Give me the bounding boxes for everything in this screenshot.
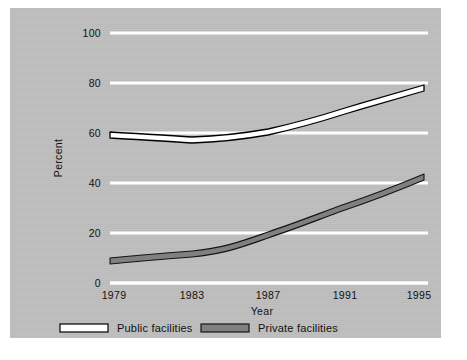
y-axis-ticks: 100 80 60 40 20 0	[83, 27, 101, 289]
series-private-facilities	[110, 174, 424, 264]
x-tick-label-1991: 1991	[333, 289, 358, 301]
x-tick-label-1983: 1983	[180, 289, 205, 301]
chart-legend: Public facilities Private facilities	[60, 322, 338, 334]
gridlines	[110, 33, 428, 283]
legend-swatch-private-facilities	[201, 324, 249, 332]
x-tick-label-1979: 1979	[102, 289, 127, 301]
y-tick-label-0: 0	[95, 277, 101, 289]
series-private-facilities-band	[110, 174, 424, 264]
y-tick-label-60: 60	[89, 127, 101, 139]
legend-label-private-facilities: Private facilities	[258, 322, 338, 334]
y-tick-label-20: 20	[89, 227, 101, 239]
y-tick-label-100: 100	[83, 27, 101, 39]
y-tick-label-40: 40	[89, 177, 101, 189]
y-axis-title: Percent	[52, 139, 64, 177]
x-tick-label-1995: 1995	[407, 289, 432, 301]
legend-label-public-facilities: Public facilities	[117, 322, 193, 334]
legend-swatch-public-facilities	[60, 324, 108, 332]
line-chart: 100 80 60 40 20 0 Percent 1979 1983 1987…	[0, 0, 467, 360]
y-tick-label-80: 80	[89, 77, 101, 89]
x-axis-title: Year	[251, 305, 274, 317]
chart-figure: 100 80 60 40 20 0 Percent 1979 1983 1987…	[0, 0, 467, 360]
x-axis-ticks: 1979 1983 1987 1991 1995	[102, 289, 432, 301]
x-tick-label-1987: 1987	[256, 289, 281, 301]
